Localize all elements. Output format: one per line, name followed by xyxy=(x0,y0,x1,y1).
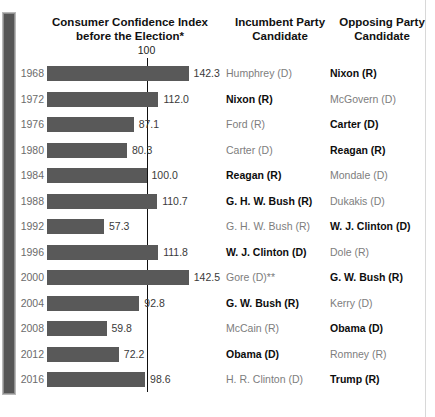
bar-value-label: 142.3 xyxy=(194,67,220,79)
bar-value-label: 59.8 xyxy=(112,322,132,334)
bar-track xyxy=(47,245,158,260)
table-row: 199257.3G. H. W. Bush (R)W. J. Clinton (… xyxy=(0,215,435,241)
confidence-bar xyxy=(47,321,107,336)
opposing-candidate: Mondale (D) xyxy=(330,169,434,181)
confidence-bar xyxy=(47,296,139,311)
bar-track xyxy=(47,143,127,158)
confidence-bar xyxy=(47,117,134,132)
opposing-candidate: Obama (D) xyxy=(330,322,434,334)
bar-value-label: 87.1 xyxy=(139,118,159,130)
table-row: 200859.8McCain (R)Obama (D) xyxy=(0,317,435,343)
table-row: 1996111.8W. J. Clinton (D)Dole (R) xyxy=(0,241,435,267)
table-row: 1984100.0Reagan (R)Mondale (D) xyxy=(0,164,435,190)
bar-value-label: 142.5 xyxy=(194,271,220,283)
row-year-label: 2008 xyxy=(8,322,44,334)
confidence-bar xyxy=(47,347,119,362)
table-row: 201698.6H. R. Clinton (D)Trump (R) xyxy=(0,368,435,394)
bar-track xyxy=(47,117,134,132)
incumbent-candidate: G. H. W. Bush (R) xyxy=(226,195,334,207)
incumbent-candidate: McCain (R) xyxy=(226,322,334,334)
incumbent-candidate: W. J. Clinton (D) xyxy=(226,246,334,258)
row-year-label: 2000 xyxy=(8,271,44,283)
bar-track xyxy=(47,347,119,362)
election-confidence-figure: Consumer Confidence Index before the Ele… xyxy=(0,0,435,417)
incumbent-candidate: G. H. W. Bush (R) xyxy=(226,220,334,232)
opposing-candidate: Nixon (R) xyxy=(330,67,434,79)
incumbent-candidate: Humphrey (D) xyxy=(226,67,334,79)
row-year-label: 1984 xyxy=(8,169,44,181)
table-row: 200492.8G. W. Bush (R)Kerry (D) xyxy=(0,292,435,318)
table-row: 1972112.0Nixon (R)McGovern (D) xyxy=(0,88,435,114)
opposing-candidate: W. J. Clinton (D) xyxy=(330,220,434,232)
incumbent-candidate: Carter (D) xyxy=(226,144,334,156)
table-row: 1988110.7G. H. W. Bush (R)Dukakis (D) xyxy=(0,190,435,216)
bar-value-label: 112.0 xyxy=(163,93,189,105)
confidence-bar xyxy=(47,270,189,285)
confidence-bar xyxy=(47,92,158,107)
chart-column-header: Consumer Confidence Index before the Ele… xyxy=(32,16,228,43)
opposing-candidate: Carter (D) xyxy=(330,118,434,130)
incumbent-candidate: G. W. Bush (R) xyxy=(226,297,334,309)
incumbent-candidate: Gore (D)** xyxy=(226,271,334,283)
opposing-column-header: Opposing Party Candidate xyxy=(330,16,434,43)
reference-line-label: 100 xyxy=(119,44,175,56)
row-year-label: 1972 xyxy=(8,93,44,105)
opposing-candidate: Reagan (R) xyxy=(330,144,434,156)
bar-track xyxy=(47,92,158,107)
bar-value-label: 110.7 xyxy=(162,195,188,207)
incumbent-candidate: H. R. Clinton (D) xyxy=(226,373,334,385)
opposing-candidate: Romney (R) xyxy=(330,348,434,360)
confidence-bar xyxy=(47,143,127,158)
bar-track xyxy=(47,168,147,183)
bar-track xyxy=(47,270,189,285)
row-year-label: 1976 xyxy=(8,118,44,130)
bar-value-label: 72.2 xyxy=(124,348,144,360)
opposing-candidate: Kerry (D) xyxy=(330,297,434,309)
incumbent-candidate: Reagan (R) xyxy=(226,169,334,181)
confidence-bar xyxy=(47,168,147,183)
bar-value-label: 98.6 xyxy=(150,373,170,385)
incumbent-candidate: Obama (D) xyxy=(226,348,334,360)
opposing-candidate: G. W. Bush (R) xyxy=(330,271,434,283)
row-year-label: 2016 xyxy=(8,373,44,385)
confidence-bar xyxy=(47,219,104,234)
bar-value-label: 57.3 xyxy=(109,220,129,232)
row-year-label: 1980 xyxy=(8,144,44,156)
bar-track xyxy=(47,321,107,336)
chart-title-line2: before the Election* xyxy=(76,30,184,42)
incumbent-column-header: Incumbent Party Candidate xyxy=(226,16,334,43)
incumbent-header-line1: Incumbent Party xyxy=(235,16,325,28)
opposing-candidate: Dukakis (D) xyxy=(330,195,434,207)
incumbent-candidate: Ford (R) xyxy=(226,118,334,130)
row-year-label: 1996 xyxy=(8,246,44,258)
row-year-label: 1992 xyxy=(8,220,44,232)
opposing-candidate: Dole (R) xyxy=(330,246,434,258)
opposing-candidate: Trump (R) xyxy=(330,373,434,385)
incumbent-header-line2: Candidate xyxy=(252,30,308,42)
bar-track xyxy=(47,194,157,209)
row-year-label: 2004 xyxy=(8,297,44,309)
bar-track xyxy=(47,219,104,234)
opposing-candidate: McGovern (D) xyxy=(330,93,434,105)
confidence-bar xyxy=(47,66,189,81)
bar-value-label: 80.3 xyxy=(132,144,152,156)
bar-value-label: 100.0 xyxy=(152,169,178,181)
incumbent-candidate: Nixon (R) xyxy=(226,93,334,105)
confidence-bar xyxy=(47,372,145,387)
table-row: 2000142.5Gore (D)**G. W. Bush (R) xyxy=(0,266,435,292)
table-row: 198080.3Carter (D)Reagan (R) xyxy=(0,139,435,165)
table-row: 197687.1Ford (R)Carter (D) xyxy=(0,113,435,139)
bar-track xyxy=(47,296,139,311)
table-row: 201272.2Obama (D)Romney (R) xyxy=(0,343,435,369)
row-year-label: 1988 xyxy=(8,195,44,207)
bar-track xyxy=(47,66,189,81)
opposing-header-line1: Opposing Party xyxy=(339,16,425,28)
bar-track xyxy=(47,372,145,387)
row-year-label: 1968 xyxy=(8,67,44,79)
confidence-bar xyxy=(47,194,157,209)
chart-title-line1: Consumer Confidence Index xyxy=(52,16,208,28)
table-row: 1968142.3Humphrey (D)Nixon (R) xyxy=(0,62,435,88)
bar-value-label: 111.8 xyxy=(163,246,188,258)
opposing-header-line2: Candidate xyxy=(354,30,410,42)
confidence-bar xyxy=(47,245,158,260)
